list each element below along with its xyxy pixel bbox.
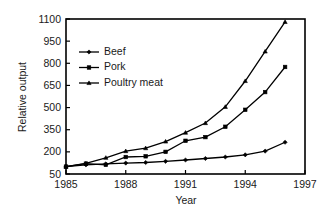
data-point-marker — [263, 149, 267, 153]
y-tick-label: 350 — [43, 123, 61, 135]
data-point-marker — [163, 159, 167, 163]
data-point-marker — [184, 139, 188, 143]
chart-figure: 502003505006508009501100 198519881991199… — [0, 0, 321, 218]
y-axis-label: Relative output — [16, 62, 28, 132]
chart-legend: BeefPorkPoultry meat — [79, 45, 163, 88]
series-polyline — [66, 22, 285, 167]
x-axis-label: Year — [175, 194, 197, 206]
data-point-marker — [283, 140, 287, 144]
x-tick-label: 1991 — [174, 178, 198, 190]
legend-item-poultry-meat: Poultry meat — [79, 76, 163, 88]
series-polyline — [66, 67, 285, 167]
data-point-marker — [283, 65, 287, 69]
x-tick-label: 1985 — [54, 178, 78, 190]
y-tick-label: 1100 — [38, 13, 61, 25]
x-axis-ticks: 19851988199119941997 — [54, 170, 317, 190]
data-point-marker — [87, 66, 91, 70]
data-point-marker — [283, 20, 287, 24]
legend-item-pork: Pork — [79, 60, 126, 72]
x-tick-label: 1988 — [114, 178, 138, 190]
x-tick-label: 1994 — [234, 178, 258, 190]
plot-area-border — [66, 19, 305, 174]
y-tick-label: 650 — [43, 79, 61, 91]
legend-label: Pork — [104, 60, 126, 72]
data-point-marker — [263, 90, 267, 94]
data-point-marker — [223, 155, 227, 159]
data-point-marker — [183, 158, 187, 162]
y-tick-label: 800 — [43, 57, 61, 69]
data-point-marker — [243, 108, 247, 112]
data-point-marker — [124, 161, 128, 165]
data-series-group — [64, 20, 287, 169]
line-chart: 502003505006508009501100 198519881991199… — [0, 0, 321, 218]
data-point-marker — [104, 163, 108, 167]
legend-label: Beef — [104, 45, 126, 57]
y-tick-label: 200 — [43, 145, 61, 157]
plot-frame — [66, 19, 305, 174]
data-point-marker — [144, 160, 148, 164]
data-point-marker — [204, 135, 208, 139]
y-tick-label: 950 — [43, 35, 61, 47]
x-tick-label: 1997 — [293, 178, 317, 190]
data-point-marker — [144, 155, 148, 159]
data-point-marker — [224, 125, 228, 129]
legend-item-beef: Beef — [79, 45, 126, 57]
data-point-marker — [243, 153, 247, 157]
data-point-marker — [203, 156, 207, 160]
data-point-marker — [124, 155, 128, 159]
data-point-marker — [164, 150, 168, 154]
y-tick-label: 500 — [43, 101, 61, 113]
legend-label: Poultry meat — [104, 76, 163, 88]
data-point-marker — [87, 50, 91, 54]
